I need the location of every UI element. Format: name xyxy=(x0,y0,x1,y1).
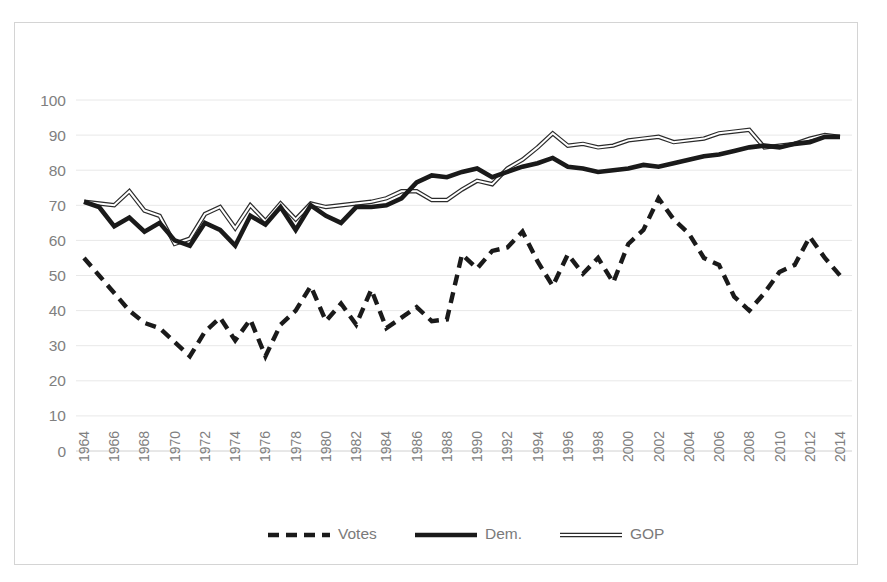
series-line-votes xyxy=(84,198,840,356)
x-tick-2010: 2010 xyxy=(772,431,788,462)
x-tick-1966: 1966 xyxy=(106,431,122,462)
x-tick-1990: 1990 xyxy=(469,431,485,462)
x-tick-1976: 1976 xyxy=(257,431,273,462)
x-tick-2006: 2006 xyxy=(711,431,727,462)
x-tick-2012: 2012 xyxy=(802,431,818,462)
x-tick-1982: 1982 xyxy=(348,431,364,462)
y-tick-50: 50 xyxy=(49,267,67,284)
x-tick-1986: 1986 xyxy=(409,431,425,462)
x-tick-1994: 1994 xyxy=(530,431,546,462)
legend-item-votes[interactable]: Votes xyxy=(268,525,377,542)
y-tick-20: 20 xyxy=(49,372,67,389)
chart-legend: VotesDem.GOP xyxy=(268,525,664,542)
legend-item-dem[interactable]: Dem. xyxy=(415,525,522,542)
y-axis-tick-labels: 0102030405060708090100 xyxy=(40,92,66,460)
series-line-gop-inner xyxy=(84,130,840,244)
x-tick-1984: 1984 xyxy=(378,431,394,462)
x-axis-tick-labels: 1964196619681970197219741976197819801982… xyxy=(76,431,848,462)
y-tick-60: 60 xyxy=(49,232,67,249)
x-tick-1998: 1998 xyxy=(590,431,606,462)
x-tick-1992: 1992 xyxy=(499,431,515,462)
y-tick-90: 90 xyxy=(49,127,67,144)
x-tick-1988: 1988 xyxy=(439,431,455,462)
y-tick-70: 70 xyxy=(49,197,67,214)
legend-item-gop[interactable]: GOP xyxy=(560,525,664,542)
x-tick-2008: 2008 xyxy=(741,431,757,462)
x-tick-1968: 1968 xyxy=(136,431,152,462)
x-tick-2000: 2000 xyxy=(620,431,636,462)
x-tick-1972: 1972 xyxy=(197,431,213,462)
x-tick-2014: 2014 xyxy=(832,431,848,462)
x-tick-2002: 2002 xyxy=(651,431,667,462)
y-tick-30: 30 xyxy=(49,337,67,354)
legend-label-votes: Votes xyxy=(338,525,377,542)
y-tick-80: 80 xyxy=(49,162,67,179)
y-tick-40: 40 xyxy=(49,302,67,319)
y-tick-100: 100 xyxy=(40,92,66,109)
data-series xyxy=(84,130,840,356)
y-tick-10: 10 xyxy=(49,407,67,424)
x-tick-2004: 2004 xyxy=(681,431,697,462)
y-tick-0: 0 xyxy=(57,443,66,460)
x-tick-1978: 1978 xyxy=(288,431,304,462)
x-tick-1980: 1980 xyxy=(318,431,334,462)
x-tick-1974: 1974 xyxy=(227,431,243,462)
x-tick-1970: 1970 xyxy=(167,431,183,462)
legend-label-gop: GOP xyxy=(630,525,664,542)
line-chart: 0102030405060708090100 19641966196819701… xyxy=(0,0,887,582)
legend-label-dem: Dem. xyxy=(485,525,522,542)
x-tick-1996: 1996 xyxy=(560,431,576,462)
x-tick-1964: 1964 xyxy=(76,431,92,462)
